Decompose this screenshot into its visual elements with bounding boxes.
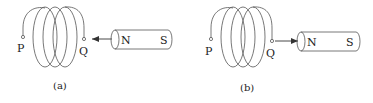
coil-a: [21, 7, 85, 67]
magnet-south-label: S: [160, 34, 168, 47]
magnet-north-label: N: [121, 34, 131, 47]
diagram-canvas: P Q N S (a) P Q N S (b): [0, 0, 373, 103]
panel-a: P Q N S (a): [17, 7, 172, 91]
coil-b: [209, 7, 273, 67]
terminal-q-label: Q: [266, 47, 275, 60]
terminal-p-label: P: [17, 42, 25, 55]
magnet-south-label: S: [346, 36, 354, 49]
caption-a: (a): [53, 80, 67, 91]
magnet-north-label: N: [307, 36, 317, 49]
terminal-q-label: Q: [79, 45, 88, 58]
terminal-p-label: P: [205, 45, 213, 58]
panel-b: P Q N S (b): [205, 7, 360, 93]
caption-b: (b): [240, 82, 254, 93]
